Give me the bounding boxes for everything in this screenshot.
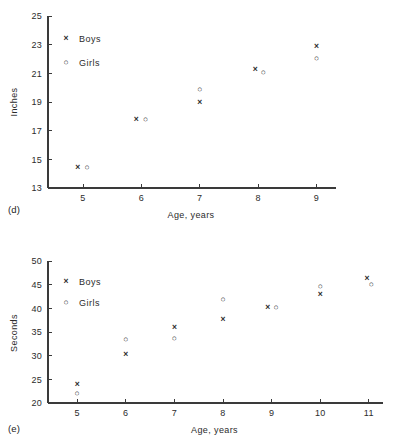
legend-marker-boys: × [64, 33, 69, 43]
x-axis-tick-label: 11 [364, 408, 374, 418]
data-point-girls-age-5: ○ [85, 162, 90, 172]
y-axis-tick-label: 40 [31, 304, 42, 314]
x-axis-tick-label: 5 [75, 408, 80, 418]
data-point-girls-age-8: ○ [220, 294, 225, 304]
legend-label-girls: Girls [79, 298, 100, 308]
x-axis-tick-label: 5 [80, 193, 85, 203]
x-axis-tick-label: 8 [255, 193, 260, 203]
data-point-girls-age-9: ○ [314, 53, 319, 63]
x-axis-title: Age, years [191, 425, 238, 435]
x-axis-tick-label: 6 [139, 193, 144, 203]
scatter-plot-seconds-vs-age: 20253035404550567891011SecondsAge, years… [0, 223, 403, 446]
data-point-girls-age-7: ○ [197, 84, 202, 94]
data-point-boys-age-7: × [197, 97, 202, 107]
y-axis-tick-label: 45 [31, 280, 42, 290]
x-axis-tick-label: 9 [269, 408, 274, 418]
y-axis-tick-label: 20 [31, 398, 42, 408]
data-point-girls-age-6: ○ [143, 114, 148, 124]
data-point-girls-age-9: ○ [273, 302, 278, 312]
y-axis-tick-label: 15 [31, 155, 42, 165]
y-axis-tick-label: 50 [31, 256, 42, 266]
x-axis-tick-label: 8 [220, 408, 225, 418]
y-axis-title: Inches [9, 87, 19, 116]
chart-panel-e: 20253035404550567891011SecondsAge, years… [0, 223, 403, 446]
data-point-girls-age-11: ○ [369, 279, 374, 289]
panel-label-e: (e) [8, 423, 20, 434]
y-axis-tick-label: 13 [31, 183, 42, 193]
y-axis-tick-label: 30 [31, 351, 42, 361]
scatter-plot-inches-vs-age: 1315171921232556789InchesAge, years×Boys… [0, 0, 403, 223]
data-point-girls-age-6: ○ [123, 334, 128, 344]
x-axis-tick-label: 7 [172, 408, 177, 418]
y-axis-tick-label: 35 [31, 327, 42, 337]
data-point-girls-age-8: ○ [261, 67, 266, 77]
legend-marker-girls: ○ [63, 297, 68, 307]
data-point-boys-age-10: × [318, 289, 323, 299]
y-axis-tick-label: 23 [31, 40, 42, 50]
x-axis-tick-label: 9 [314, 193, 319, 203]
y-axis-tick-label: 19 [31, 97, 42, 107]
data-point-boys-age-6: × [134, 114, 139, 124]
y-axis-title: Seconds [9, 314, 19, 352]
panel-label-d: (d) [8, 204, 20, 215]
x-axis-title: Age, years [167, 210, 214, 220]
data-point-boys-age-9: × [265, 302, 270, 312]
data-point-girls-age-10: ○ [318, 281, 323, 291]
chart-panel-d: 1315171921232556789InchesAge, years×Boys… [0, 0, 403, 223]
data-point-boys-age-9: × [314, 41, 319, 51]
data-point-boys-age-8: × [221, 314, 226, 324]
data-point-boys-age-5: × [75, 162, 80, 172]
data-point-girls-age-5: ○ [75, 388, 80, 398]
y-axis-tick-label: 25 [31, 11, 42, 21]
y-axis-tick-label: 17 [31, 126, 42, 136]
y-axis-tick-label: 21 [31, 69, 42, 79]
data-point-boys-age-8: × [253, 64, 258, 74]
legend-label-boys: Boys [79, 277, 101, 287]
legend-label-boys: Boys [79, 34, 101, 44]
x-axis-tick-label: 7 [197, 193, 202, 203]
legend-label-girls: Girls [79, 58, 100, 68]
y-axis-tick-label: 25 [31, 375, 42, 385]
data-point-boys-age-7: × [172, 322, 177, 332]
x-axis-tick-label: 6 [123, 408, 128, 418]
data-point-boys-age-6: × [123, 349, 128, 359]
data-point-girls-age-7: ○ [172, 333, 177, 343]
legend-marker-boys: × [64, 276, 69, 286]
x-axis-tick-label: 10 [315, 408, 326, 418]
legend-marker-girls: ○ [63, 57, 68, 67]
